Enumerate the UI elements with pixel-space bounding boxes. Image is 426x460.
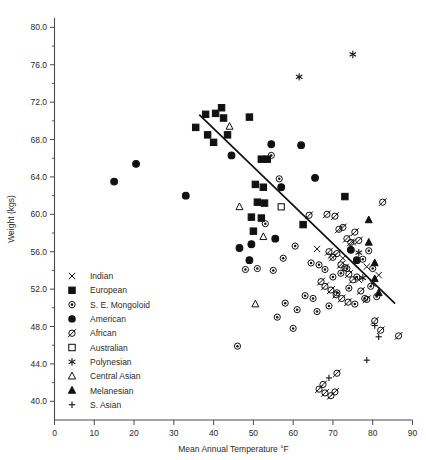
legend-item-s-e-mongoloid[interactable]: S. E. Mongoloid (60, 298, 180, 311)
marker-circle-dot-center (272, 269, 274, 271)
trendline-layer (200, 115, 395, 303)
series-african (305, 198, 402, 399)
marker-circle (111, 178, 118, 185)
legend-item-label: S. Asian (90, 400, 121, 410)
marker-circle (248, 241, 255, 248)
marker-circle-dot-center (236, 345, 238, 347)
marker-square (248, 214, 254, 220)
legend-item-label: African (90, 328, 117, 338)
marker-circle-dot-center (264, 222, 266, 224)
marker-circle-dot-center (276, 316, 278, 318)
marker-square (300, 221, 306, 227)
marker-circle-dot-center (340, 272, 342, 274)
y-tick-label: 76.0 (30, 60, 47, 70)
marker-circle-dot-center (304, 294, 306, 296)
legend-item-hitbox[interactable] (60, 270, 180, 283)
marker-square (258, 215, 264, 221)
regression-trendline (200, 115, 395, 303)
marker-circle-dot-center (244, 268, 246, 270)
marker-triangle (226, 123, 233, 130)
legend-item-label: Melanesian (90, 386, 134, 396)
x-tick-label: 0 (52, 428, 57, 438)
legend-item-indian[interactable]: Indian (60, 270, 180, 283)
legend-item-s-asian[interactable]: S. Asian (60, 398, 180, 411)
marker-square (69, 287, 75, 293)
y-tick-label: 52.0 (30, 284, 47, 294)
marker-circle-dot-center (332, 276, 334, 278)
marker-circle (246, 257, 253, 264)
marker-square (250, 228, 256, 234)
marker-circle-dot-center (354, 303, 356, 305)
marker-circle-dot-center (318, 264, 320, 266)
marker-square (224, 132, 230, 138)
marker-circle-dot-center (362, 258, 364, 260)
marker-square (252, 181, 258, 187)
marker-triangle (365, 238, 372, 245)
marker-circle (133, 160, 140, 167)
marker-circle (298, 142, 305, 149)
y-tick-label: 56.0 (30, 247, 47, 257)
marker-circle (353, 257, 360, 264)
marker-square (342, 193, 348, 199)
marker-circle (278, 184, 285, 191)
marker-circle-dot-center (371, 267, 373, 269)
x-tick-label: 90 (408, 428, 418, 438)
x-tick-label: 60 (288, 428, 298, 438)
series-european (193, 105, 349, 235)
x-tick-label: 80 (368, 428, 378, 438)
marker-triangle (252, 300, 259, 307)
x-tick-label: 40 (209, 428, 219, 438)
marker-triangle (365, 216, 372, 223)
marker-triangle (371, 259, 378, 266)
plot-canvas: 40.044.048.052.056.060.064.068.072.076.0… (0, 0, 426, 460)
series-indian (314, 239, 382, 286)
marker-circle (268, 141, 275, 148)
marker-circle-dot-center (282, 257, 284, 259)
marker-square (210, 139, 216, 145)
marker-circle-dot-center (368, 250, 370, 252)
y-tick-label: 60.0 (30, 209, 47, 219)
y-tick-label: 64.0 (30, 172, 47, 182)
marker-circle (228, 152, 235, 159)
marker-square (246, 114, 252, 120)
y-tick-label: 72.0 (30, 97, 47, 107)
x-tick-label: 10 (90, 428, 100, 438)
legend-item-label: European (90, 285, 127, 295)
legend-item-american[interactable]: American (60, 312, 180, 325)
marker-circle (347, 246, 354, 253)
marker-circle-dot-center (316, 310, 318, 312)
marker-triangle (260, 233, 267, 240)
marker-square (202, 111, 208, 117)
scatter-plot-figure: 40.044.048.052.056.060.064.068.072.076.0… (0, 0, 426, 460)
marker-circle-dot-center (310, 262, 312, 264)
marker-circle-dot-center (256, 267, 258, 269)
y-tick-label: 40.0 (30, 396, 47, 406)
x-tick-label: 20 (129, 428, 139, 438)
legend-item-african[interactable]: African (60, 327, 180, 340)
marker-square (258, 156, 264, 162)
y-axis-title: Weight (kgs) (6, 195, 16, 243)
marker-square (212, 110, 218, 116)
legend-item-central-asian[interactable]: Central Asian (60, 370, 180, 383)
x-tick-label: 50 (249, 428, 259, 438)
series-australian (278, 204, 284, 210)
legend-item-label: S. E. Mongoloid (90, 300, 150, 310)
marker-circle-dot-center (270, 154, 272, 156)
marker-square (204, 132, 210, 138)
marker-circle (182, 192, 189, 199)
legend-item-hitbox[interactable] (60, 327, 180, 340)
legend-item-melanesian[interactable]: Melanesian (60, 384, 180, 397)
legend-item-label: American (90, 314, 126, 324)
legend-item-polynesian[interactable]: Polynesian (60, 355, 180, 368)
legend[interactable]: IndianEuropeanS. E. MongoloidAmericanAfr… (60, 270, 180, 412)
legend-item-australian[interactable]: Australian (60, 341, 180, 354)
legend-item-european[interactable]: European (60, 284, 180, 297)
legend-item-label: Polynesian (90, 357, 132, 367)
marker-square (218, 105, 224, 111)
marker-circle-dot-center (71, 303, 74, 306)
marker-circle-dot-center (328, 305, 330, 307)
x-tick-label: 70 (328, 428, 338, 438)
x-axis-title: Mean Annual Temperature °F (178, 444, 289, 454)
y-tick-label: 68.0 (30, 135, 47, 145)
marker-triangle (236, 203, 243, 210)
